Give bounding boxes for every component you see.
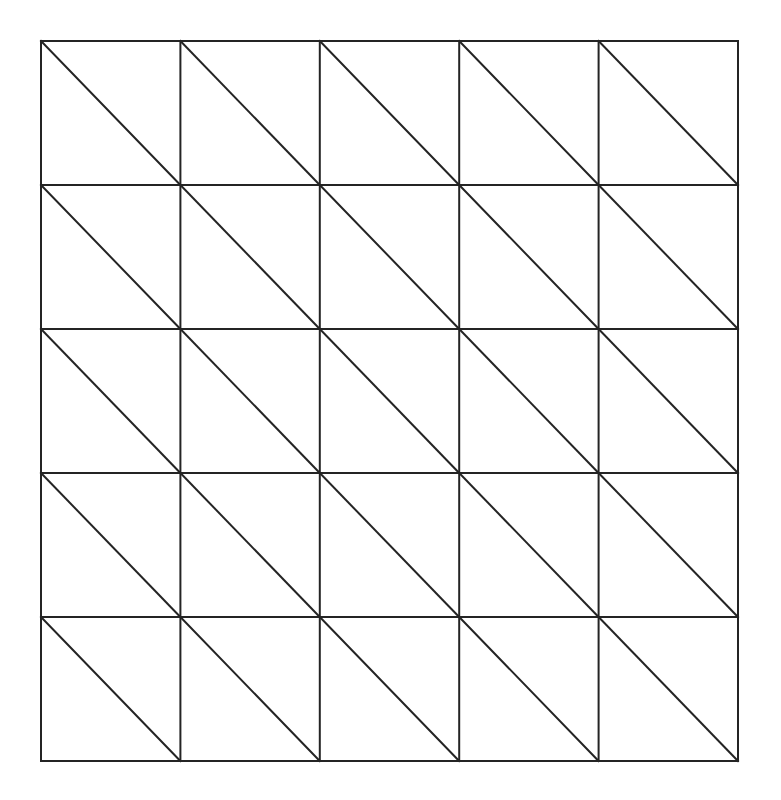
cell-diagonal-line (180, 617, 319, 761)
cell-diagonal-line (180, 41, 319, 185)
cell-diagonal-line (459, 617, 598, 761)
cell-diagonal-line (180, 185, 319, 329)
cell-diagonal-line (41, 41, 180, 185)
cell-diagonal-line (320, 473, 459, 617)
cell-diagonal-line (41, 185, 180, 329)
cell-diagonal-line (459, 185, 598, 329)
cell-diagonal-line (320, 617, 459, 761)
cell-diagonal-line (41, 473, 180, 617)
cell-diagonal-line (599, 473, 738, 617)
page-canvas (0, 0, 781, 800)
cell-diagonal-line (41, 617, 180, 761)
cell-diagonal-line (320, 329, 459, 473)
cell-diagonal-line (459, 329, 598, 473)
cell-diagonal-line (320, 41, 459, 185)
cell-diagonal-line (41, 329, 180, 473)
cell-diagonal-line (599, 41, 738, 185)
cell-diagonal-line (459, 41, 598, 185)
cell-diagonal-line (599, 329, 738, 473)
cell-diagonal-line (599, 185, 738, 329)
cell-diagonal-line (320, 185, 459, 329)
triangular-grid-figure (0, 0, 781, 800)
cell-diagonal-line (180, 473, 319, 617)
cell-diagonal-line (599, 617, 738, 761)
cell-diagonal-line (180, 329, 319, 473)
cell-diagonal-line (459, 473, 598, 617)
